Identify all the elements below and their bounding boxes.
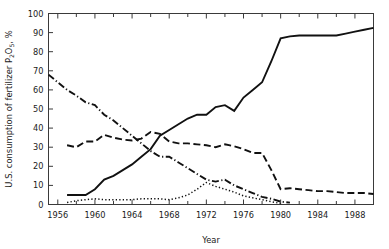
y-tick-label: 20 (33, 161, 43, 171)
x-axis-ticks (58, 14, 355, 205)
series-dash-dot-series (49, 75, 290, 203)
y-axis-title: U.S. consumption of fertilizer P2O5, % (4, 30, 15, 187)
y-tick-label: 40 (33, 123, 43, 133)
x-axis-title: Year (201, 235, 220, 245)
series-solid-series (67, 28, 373, 195)
y-tick-label: 10 (33, 180, 43, 190)
y-tick-label: 30 (33, 142, 43, 152)
x-tick-label: 1980 (270, 210, 291, 220)
series-dashed-series (67, 132, 373, 194)
x-tick-label: 1972 (196, 210, 217, 220)
y-axis-tick-labels: 0102030405060708090100 (28, 9, 44, 210)
y-tick-label: 100 (28, 9, 44, 19)
data-series-group (49, 28, 374, 204)
chart-figure: 0102030405060708090100 19561960196419681… (0, 0, 389, 249)
svg-text:U.S. consumption of fertilizer: U.S. consumption of fertilizer P2O5, % (4, 30, 15, 187)
plot-frame (49, 14, 374, 205)
y-axis-ticks (49, 14, 54, 205)
y-tick-label: 80 (33, 47, 43, 57)
x-tick-label: 1968 (159, 210, 180, 220)
x-tick-label: 1960 (85, 210, 106, 220)
x-tick-label: 1964 (122, 210, 143, 220)
y-tick-label: 50 (33, 104, 43, 114)
x-tick-label: 1956 (47, 210, 68, 220)
y-tick-label: 90 (33, 28, 43, 38)
y-tick-label: 0 (38, 200, 43, 210)
x-tick-label: 1976 (233, 210, 254, 220)
y-axis-title-prefix: U.S. consumption of fertilizer P (4, 58, 14, 188)
y-tick-label: 60 (33, 85, 43, 95)
x-axis-tick-labels: 195619601964196819721976198019841988 (47, 210, 365, 220)
y-tick-label: 70 (33, 66, 43, 76)
x-tick-label: 1988 (345, 210, 366, 220)
x-tick-label: 1984 (307, 210, 328, 220)
line-chart: 0102030405060708090100 19561960196419681… (0, 0, 389, 249)
y-axis-title-suffix: , % (4, 30, 14, 43)
